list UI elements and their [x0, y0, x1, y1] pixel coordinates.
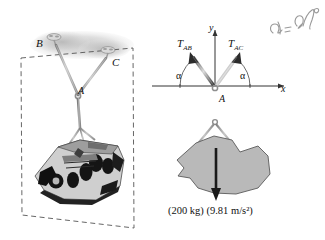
force-vector-tac: [216, 52, 242, 86]
label-angle-alpha-right: α: [240, 71, 245, 81]
label-force-tab: TAB: [177, 38, 192, 52]
label-force-tac-sub: AC: [234, 44, 243, 52]
label-x-axis: x: [281, 84, 285, 94]
label-point-a-pictorial: A: [78, 86, 84, 96]
label-weight: (200 kg) (9.81 m/s²): [168, 205, 253, 216]
label-point-c: C: [112, 57, 119, 68]
label-angle-alpha-left: α: [176, 71, 181, 81]
label-point-b: B: [36, 38, 43, 49]
statics-figure: B C A y x A α α TAB TAC (200 kg) (9.81 m…: [0, 0, 325, 240]
fbd-body: [177, 136, 270, 194]
force-vector-tab: [189, 52, 215, 86]
ceiling-cloud: [30, 31, 134, 59]
angle-arc-left: [180, 61, 191, 86]
label-point-a-fbd: A: [219, 94, 225, 104]
label-force-tac: TAC: [228, 38, 243, 52]
label-force-tab-sub: AB: [183, 44, 192, 52]
handwritten-note-icon: [265, 4, 323, 40]
engine-block: [35, 140, 124, 205]
label-y-axis: y: [209, 23, 213, 33]
